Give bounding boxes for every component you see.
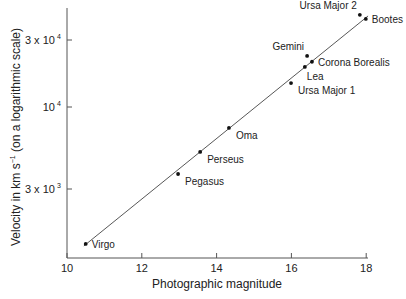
data-point-lea xyxy=(303,65,307,69)
data-label-gemini: Gemini xyxy=(272,41,304,52)
data-label-oma: Oma xyxy=(236,130,258,141)
data-points: VirgoPegasusPerseusOmaUrsa Major 1LeaGem… xyxy=(84,0,403,250)
data-label-virgo: Virgo xyxy=(92,239,116,250)
data-label-perseus: Perseus xyxy=(207,154,244,165)
y-axis-title-sup: −1 xyxy=(9,155,16,163)
x-ticks: 1012141618 xyxy=(61,253,372,274)
data-point-pegasus xyxy=(176,172,180,176)
y-axis-title-tail: (on a logarithmic scale) xyxy=(9,28,23,155)
x-tick-label: 10 xyxy=(61,262,73,274)
scatter-chart: 1012141618 3 x 10 310 43 x 10 4 VirgoPeg… xyxy=(0,0,406,299)
data-label-ursa-major-1: Ursa Major 1 xyxy=(298,85,356,96)
data-point-perseus xyxy=(198,150,202,154)
data-point-gemini xyxy=(305,54,309,58)
data-label-bootes: Bootes xyxy=(372,14,403,25)
data-point-corona-borealis xyxy=(310,60,314,64)
x-tick-label: 18 xyxy=(360,262,372,274)
y-ticks: 3 x 10 310 43 x 10 4 xyxy=(25,33,72,195)
regression-line xyxy=(84,16,368,246)
y-tick-label: 3 x 10 4 xyxy=(25,33,61,46)
data-label-ursa-major-2: Ursa Major 2 xyxy=(300,0,358,11)
data-point-ursa-major-2 xyxy=(358,13,362,17)
x-tick-label: 12 xyxy=(136,262,148,274)
y-axis-title-main: Velocity in km s xyxy=(9,163,23,246)
y-axis-title: Velocity in km s−1 (on a logarithmic sca… xyxy=(9,28,23,246)
axes xyxy=(67,8,368,258)
data-label-lea: Lea xyxy=(307,71,324,82)
x-axis-title: Photographic magnitude xyxy=(152,277,282,291)
data-point-virgo xyxy=(84,242,88,246)
data-point-bootes xyxy=(364,17,368,21)
data-label-corona-borealis: Corona Borealis xyxy=(318,57,390,68)
x-tick-label: 16 xyxy=(285,262,297,274)
y-tick-label: 3 x 10 3 xyxy=(25,182,61,195)
data-label-pegasus: Pegasus xyxy=(185,176,224,187)
data-point-oma xyxy=(227,126,231,130)
data-point-ursa-major-1 xyxy=(289,81,293,85)
y-tick-label: 10 4 xyxy=(43,100,61,113)
x-tick-label: 14 xyxy=(210,262,222,274)
